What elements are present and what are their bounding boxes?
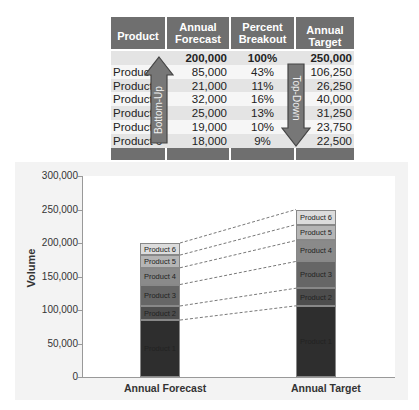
bar-segment: Product 5 — [140, 255, 180, 268]
bar-segment: Product 1 — [140, 320, 180, 377]
x-label-target: Annual Target — [291, 382, 361, 394]
bar-segment: Product 6 — [140, 243, 180, 255]
bar-segment: Product 3 — [296, 261, 336, 288]
bar-segment: Product 5 — [296, 225, 336, 241]
bar-segment: Product 4 — [296, 240, 336, 261]
bar-segment: Product 1 — [296, 306, 336, 377]
connector-lines — [0, 0, 419, 410]
bar-segment: Product 6 — [296, 210, 336, 225]
bar-segment: Product 2 — [140, 306, 180, 320]
bar-segment: Product 2 — [296, 288, 336, 306]
bar-segment: Product 3 — [140, 285, 180, 306]
x-label-forecast: Annual Forecast — [124, 382, 206, 394]
bar-segment: Product 4 — [140, 268, 180, 285]
